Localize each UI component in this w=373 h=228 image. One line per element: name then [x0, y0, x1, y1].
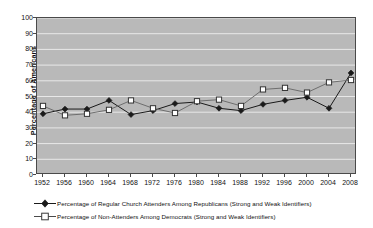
y-axis-tick-label: 60 — [0, 76, 33, 83]
x-axis-tick-mark — [64, 174, 65, 177]
chart-legend: Percentage of Regular Church Attenders A… — [33, 197, 368, 223]
legend-symbol-filled-diamond-icon — [33, 198, 57, 209]
y-axis-tick-label: 40 — [0, 108, 33, 115]
x-axis-tick-mark — [196, 174, 197, 177]
x-axis-tick-mark — [86, 174, 87, 177]
legend-symbol-open-square-icon — [33, 211, 57, 222]
x-axis-tick-mark — [284, 174, 285, 177]
x-axis-tick-label: 2008 — [335, 179, 365, 187]
y-axis-tick-label: 80 — [0, 45, 33, 52]
plot-svg — [37, 18, 356, 174]
plot-area — [36, 17, 356, 174]
y-axis-tick-label: 30 — [0, 123, 33, 130]
y-axis-tick-label: 70 — [0, 61, 33, 68]
y-axis-tick-label: 90 — [0, 29, 33, 36]
x-axis-tick-mark — [350, 174, 351, 177]
y-axis-tick-label: 20 — [0, 139, 33, 146]
x-axis-tick-labels: 1952195619601964196819721976198019841988… — [36, 174, 356, 194]
legend-label: Percentage of Non-Attenders Among Democr… — [57, 213, 276, 221]
x-axis-tick-mark — [108, 174, 109, 177]
chart-container: Percentage of Americans 1009080706050403… — [0, 0, 373, 228]
x-axis-tick-mark — [328, 174, 329, 177]
y-axis-tick-label: 10 — [0, 155, 33, 162]
x-axis-tick-mark — [306, 174, 307, 177]
y-axis-tick-label: 50 — [0, 92, 33, 99]
x-axis-tick-mark — [130, 174, 131, 177]
legend-item: Percentage of Regular Church Attenders A… — [33, 197, 368, 210]
legend-label: Percentage of Regular Church Attenders A… — [57, 200, 312, 208]
x-axis-tick-mark — [42, 174, 43, 177]
x-axis-tick-mark — [218, 174, 219, 177]
x-axis-tick-mark — [152, 174, 153, 177]
x-axis-tick-mark — [174, 174, 175, 177]
legend-item: Percentage of Non-Attenders Among Democr… — [33, 210, 368, 223]
y-axis-tick-label: 0 — [0, 171, 33, 178]
x-axis-tick-mark — [240, 174, 241, 177]
y-axis-tick-label: 100 — [0, 14, 33, 21]
x-axis-tick-mark — [262, 174, 263, 177]
